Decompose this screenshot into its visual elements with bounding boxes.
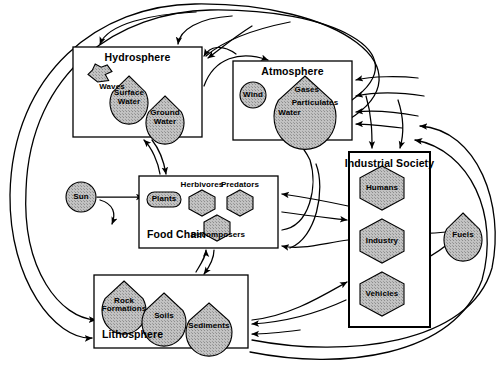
node-label-sun: Sun bbox=[54, 193, 108, 201]
node-label-fuels: Fuels bbox=[436, 231, 490, 239]
node-label-plants: Plants bbox=[134, 195, 194, 203]
container-title-industrial-society: Industrial Society bbox=[340, 157, 440, 169]
node-label-vehicles: Vehicles bbox=[347, 290, 417, 298]
node-label-particulates: Particulates bbox=[287, 99, 343, 107]
container-title-food-chain: Food Chain bbox=[147, 228, 247, 240]
node-label-gases: Gases bbox=[279, 86, 335, 94]
node-label-soils: Soils bbox=[129, 312, 199, 320]
node-label-humans: Humans bbox=[347, 184, 417, 192]
node-label-wind: Wind bbox=[227, 91, 279, 99]
container-title-lithosphere: Lithosphere bbox=[102, 328, 202, 340]
diagram-canvas: WavesSurface WaterGround WaterWindGasesP… bbox=[0, 0, 503, 384]
node-label-surface-water: Surface Water bbox=[97, 89, 161, 105]
node-label-industry: Industry bbox=[347, 237, 417, 245]
node-label-predators: Predators bbox=[214, 181, 266, 189]
node-label-ground-water: Ground Water bbox=[133, 109, 197, 125]
container-title-atmosphere: Atmosphere bbox=[243, 65, 343, 77]
node-label-rock-formations: Rock Formations bbox=[89, 297, 159, 313]
node-label-water: Water bbox=[262, 109, 318, 117]
container-title-hydrosphere: Hydrosphere bbox=[88, 51, 188, 63]
